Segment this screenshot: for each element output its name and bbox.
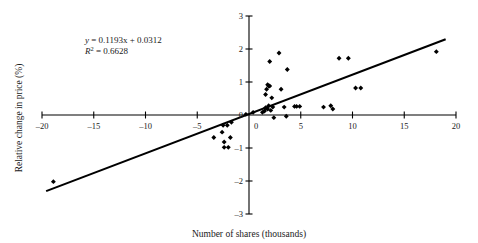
x-tick-label: 20	[452, 121, 461, 131]
x-tick-label: 10	[348, 121, 357, 131]
data-point	[269, 95, 274, 100]
x-tick-label: –5	[192, 121, 202, 131]
data-point	[321, 105, 326, 110]
data-point	[279, 87, 284, 92]
data-point	[51, 179, 56, 184]
data-point	[434, 49, 439, 54]
x-tick-label: 0	[254, 121, 258, 131]
data-point	[353, 85, 358, 90]
y-tick-label: 2	[239, 44, 243, 54]
x-tick-label: 5	[299, 121, 303, 131]
r-squared-body: = 0.6628	[94, 46, 129, 56]
scatter-plot: –20–15–10–505101520–3–2–10123 Number of …	[0, 0, 478, 243]
data-point	[226, 145, 231, 150]
r-squared-annotation: R2 = 0.6628	[84, 45, 129, 56]
y-tick-label: 0	[239, 110, 243, 120]
data-point	[211, 135, 216, 140]
x-axis-title: Number of shares (thousands)	[192, 229, 306, 240]
y-tick-label: 3	[239, 11, 243, 21]
y-tick-label: 1	[239, 77, 243, 87]
x-tick-label: –15	[86, 121, 100, 131]
regression-equation: y = 0.1193x + 0.0312	[84, 35, 162, 45]
data-point	[220, 130, 225, 135]
y-axis-title: Relative change in price (%)	[14, 64, 25, 173]
data-point	[297, 104, 302, 109]
data-point	[346, 56, 351, 61]
data-point	[277, 51, 282, 56]
y-tick-label: –3	[234, 209, 244, 219]
data-point	[337, 56, 342, 61]
data-point	[263, 92, 268, 97]
x-tick-label: 15	[400, 121, 409, 131]
data-point	[222, 140, 227, 145]
x-tick-label: –10	[138, 121, 152, 131]
equation-body: = 0.1193x + 0.0312	[89, 35, 162, 45]
data-point	[282, 105, 287, 110]
data-point	[358, 85, 363, 90]
x-tick-label: –20	[35, 121, 49, 131]
data-point	[267, 59, 272, 64]
y-tick-label: –2	[234, 176, 244, 186]
scatter-chart-container: –20–15–10–505101520–3–2–10123 Number of …	[0, 0, 478, 243]
data-point	[228, 135, 233, 140]
data-point	[285, 67, 290, 72]
y-tick-label: –1	[234, 143, 244, 153]
data-point	[271, 115, 276, 120]
